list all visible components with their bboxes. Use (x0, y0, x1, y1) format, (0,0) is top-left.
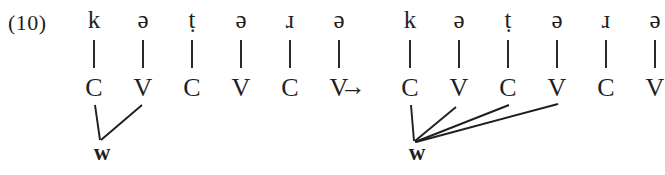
melody-segment: k (77, 6, 111, 34)
assoc-line-floating-slot-1 (101, 105, 142, 140)
skeletal-slot: C (491, 74, 525, 102)
skeletal-slot: C (77, 74, 111, 102)
skeletal-slot: V (126, 74, 160, 102)
skeletal-slot: V (638, 74, 665, 102)
melody-segment: ɹ (589, 6, 623, 34)
assoc-line-floating-slot-1 (415, 107, 456, 141)
assoc-line-floating-slot-2 (415, 105, 509, 142)
skeletal-slot: C (393, 74, 427, 102)
assoc-line-floating-slot-0 (95, 105, 100, 140)
example-number: (10) (8, 10, 47, 36)
melody-segment: k (393, 6, 427, 34)
skeletal-slot: C (589, 74, 623, 102)
skeletal-slot: C (175, 74, 209, 102)
melody-segment: ə (638, 6, 665, 34)
melody-segment: ɹ (273, 6, 307, 34)
melody-segment: ə (224, 6, 258, 34)
example-block: (10) k ə ṭ ə ɹ ə C V C V C (0, 0, 665, 175)
derivation-input: k ə ṭ ə ɹ ə C V C V C V w (76, 0, 366, 175)
skeletal-slot: V (540, 74, 574, 102)
skeletal-slot: V (224, 74, 258, 102)
assoc-line-floating-slot-3 (416, 104, 558, 142)
melody-segment: ṭ (175, 6, 209, 34)
derivation-output: k ə ṭ ə ɹ ə C V C V C V w (392, 0, 665, 175)
becomes-arrow-icon: → (340, 74, 366, 100)
skeletal-slot: C (273, 74, 307, 102)
melody-segment: ṭ (491, 6, 525, 34)
floating-autosegment: w (400, 140, 434, 166)
melody-segment: ə (126, 6, 160, 34)
melody-segment: ə (442, 6, 476, 34)
melody-segment: ə (540, 6, 574, 34)
floating-autosegment: w (85, 140, 119, 166)
assoc-line-floating-slot-0 (411, 105, 414, 141)
skeletal-slot: V (442, 74, 476, 102)
melody-segment: ə (322, 6, 356, 34)
